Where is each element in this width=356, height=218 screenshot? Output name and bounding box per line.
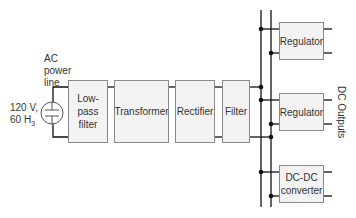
voltage-label: 120 V, <box>10 102 38 114</box>
transformer-block: Transformer <box>114 80 169 143</box>
source-label-line: power <box>44 65 71 77</box>
block-label: Rectifier <box>177 105 214 118</box>
rectifier-block: Rectifier <box>175 80 215 143</box>
frequency-sub: 3 <box>31 120 35 127</box>
power-supply-block-diagram: AC power line 120 V, 60 H3 Low-passfilte… <box>0 0 356 218</box>
source-rating: 120 V, 60 H3 <box>10 102 38 130</box>
block-label: Regulator <box>280 106 323 119</box>
dcdc-converter-block: DC-DCconverter <box>279 165 324 203</box>
block-label: Filter <box>225 105 247 118</box>
frequency-main: 60 H <box>10 114 31 125</box>
frequency-label: 60 H3 <box>10 114 38 130</box>
block-label: Low- <box>77 92 99 105</box>
block-label: filter <box>77 118 99 131</box>
block-label: Regulator <box>280 35 323 48</box>
source-label-line: AC <box>44 53 71 65</box>
block-label: DC-DC <box>281 171 323 184</box>
dc-outputs-label: DC Outputs <box>336 86 347 138</box>
regulator-block-2: Regulator <box>279 93 324 131</box>
lowpass-filter-block: Low-passfilter <box>68 80 108 143</box>
block-label: converter <box>281 184 323 197</box>
filter-block: Filter <box>222 80 250 143</box>
block-label: pass <box>77 105 99 118</box>
ac-source-icon <box>41 102 63 124</box>
block-label: Transformer <box>114 105 168 118</box>
regulator-block-1: Regulator <box>279 22 324 60</box>
